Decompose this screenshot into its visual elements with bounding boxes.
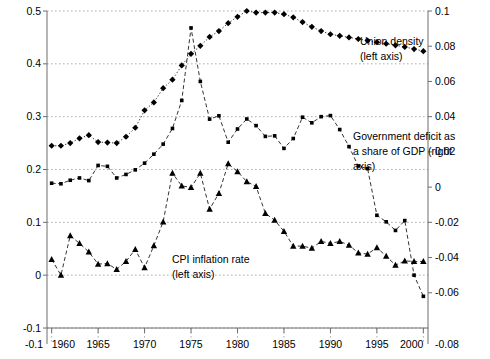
- data-point-square: [394, 229, 398, 233]
- x-tick-label: 1965: [86, 338, 110, 350]
- data-point-square: [226, 140, 230, 144]
- data-point-square: [152, 152, 156, 156]
- data-point-square: [403, 219, 407, 223]
- data-point-square: [161, 142, 165, 146]
- data-point-square: [264, 135, 268, 139]
- annotation-line: a share of GDP (right: [353, 145, 452, 157]
- data-point-square: [217, 114, 221, 118]
- y-tick-label-left: -0.1: [23, 322, 41, 334]
- data-point-square: [291, 137, 295, 141]
- annotation-line: CPI inflation rate: [172, 253, 250, 265]
- x-tick-label: 1980: [226, 338, 250, 350]
- y-tick-label-left: 0.4: [26, 57, 41, 69]
- data-point-square: [245, 117, 249, 121]
- data-point-square: [329, 114, 333, 118]
- y-tick-label-left: 0: [35, 269, 41, 281]
- data-point-square: [180, 99, 184, 103]
- y-tick-label-right: -0.04: [435, 251, 459, 263]
- x-tick-label: 1970: [133, 338, 157, 350]
- data-point-square: [189, 26, 193, 30]
- data-point-square: [301, 115, 305, 119]
- data-point-square: [124, 173, 128, 177]
- y-tick-label-right: 0.04: [435, 110, 456, 122]
- data-point-square: [282, 147, 286, 151]
- data-point-square: [199, 80, 203, 84]
- annotation-line: (left axis): [360, 50, 403, 62]
- data-point-square: [208, 117, 212, 121]
- y-tick-label-left: 0.1: [26, 216, 41, 228]
- data-point-square: [87, 179, 91, 183]
- x-tick-label: 1985: [272, 338, 296, 350]
- x-tick-label: 1990: [319, 338, 343, 350]
- data-point-square: [375, 213, 379, 217]
- chart-container: -0.100.10.20.30.40.5-0.1-0.08-0.06-0.04-…: [0, 0, 490, 359]
- y-tick-label-left: 0.2: [26, 163, 41, 175]
- economic-indicators-line-chart: -0.100.10.20.30.40.5-0.1-0.08-0.06-0.04-…: [0, 0, 490, 359]
- data-point-square: [143, 161, 147, 165]
- y-tick-label-right: -0.08: [435, 338, 459, 350]
- data-point-square: [319, 115, 323, 119]
- y-axis-left-min-label: -0.1: [25, 338, 43, 350]
- data-point-square: [338, 128, 342, 132]
- x-tick-label: 1995: [365, 338, 389, 350]
- y-tick-label-left: 0.5: [26, 5, 41, 17]
- x-tick-label: 1960: [52, 338, 76, 350]
- data-point-square: [96, 164, 100, 168]
- data-point-square: [106, 165, 110, 169]
- y-tick-label-right: 0.1: [435, 5, 450, 17]
- y-tick-label-left: 0.3: [26, 110, 41, 122]
- y-tick-label-right: 0: [435, 181, 441, 193]
- x-tick-label: 1975: [179, 338, 203, 350]
- y-tick-label-right: -0.02: [435, 216, 459, 228]
- data-point-square: [384, 220, 388, 224]
- data-point-square: [133, 168, 137, 172]
- y-tick-label-right: 0.08: [435, 40, 456, 52]
- data-point-square: [422, 295, 426, 299]
- data-point-square: [347, 145, 351, 149]
- annotation-line: axis): [353, 160, 375, 172]
- data-point-square: [78, 176, 82, 180]
- x-tick-label: 2000: [400, 338, 424, 350]
- data-point-square: [273, 134, 277, 138]
- data-point-square: [236, 127, 240, 131]
- data-point-square: [50, 181, 54, 185]
- data-point-square: [254, 124, 258, 128]
- y-tick-label-right: 0.06: [435, 75, 456, 87]
- data-point-square: [68, 178, 72, 182]
- data-point-square: [171, 127, 175, 131]
- y-tick-label-right: -0.06: [435, 286, 459, 298]
- data-point-square: [310, 121, 314, 125]
- annotation-line: (left axis): [172, 268, 215, 280]
- annotation-line: Union density: [360, 35, 424, 47]
- annotation-line: Government deficit as: [353, 130, 455, 142]
- data-point-square: [412, 273, 416, 277]
- data-point-square: [59, 182, 63, 186]
- data-point-square: [115, 176, 119, 180]
